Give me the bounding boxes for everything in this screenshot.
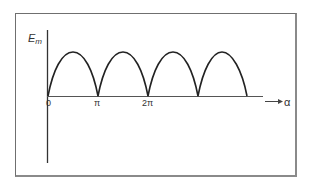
tick-2pi: 2π	[142, 99, 153, 108]
y-label-sub: m	[35, 37, 42, 46]
y-axis-label: Em	[28, 33, 42, 46]
arrow-head-icon	[278, 99, 283, 104]
x-axis-label: α	[284, 97, 290, 108]
tick-0: 0	[46, 99, 51, 108]
diagram-canvas	[0, 0, 310, 187]
rectified-sine-curve	[48, 52, 247, 96]
tick-pi: π	[94, 99, 100, 108]
